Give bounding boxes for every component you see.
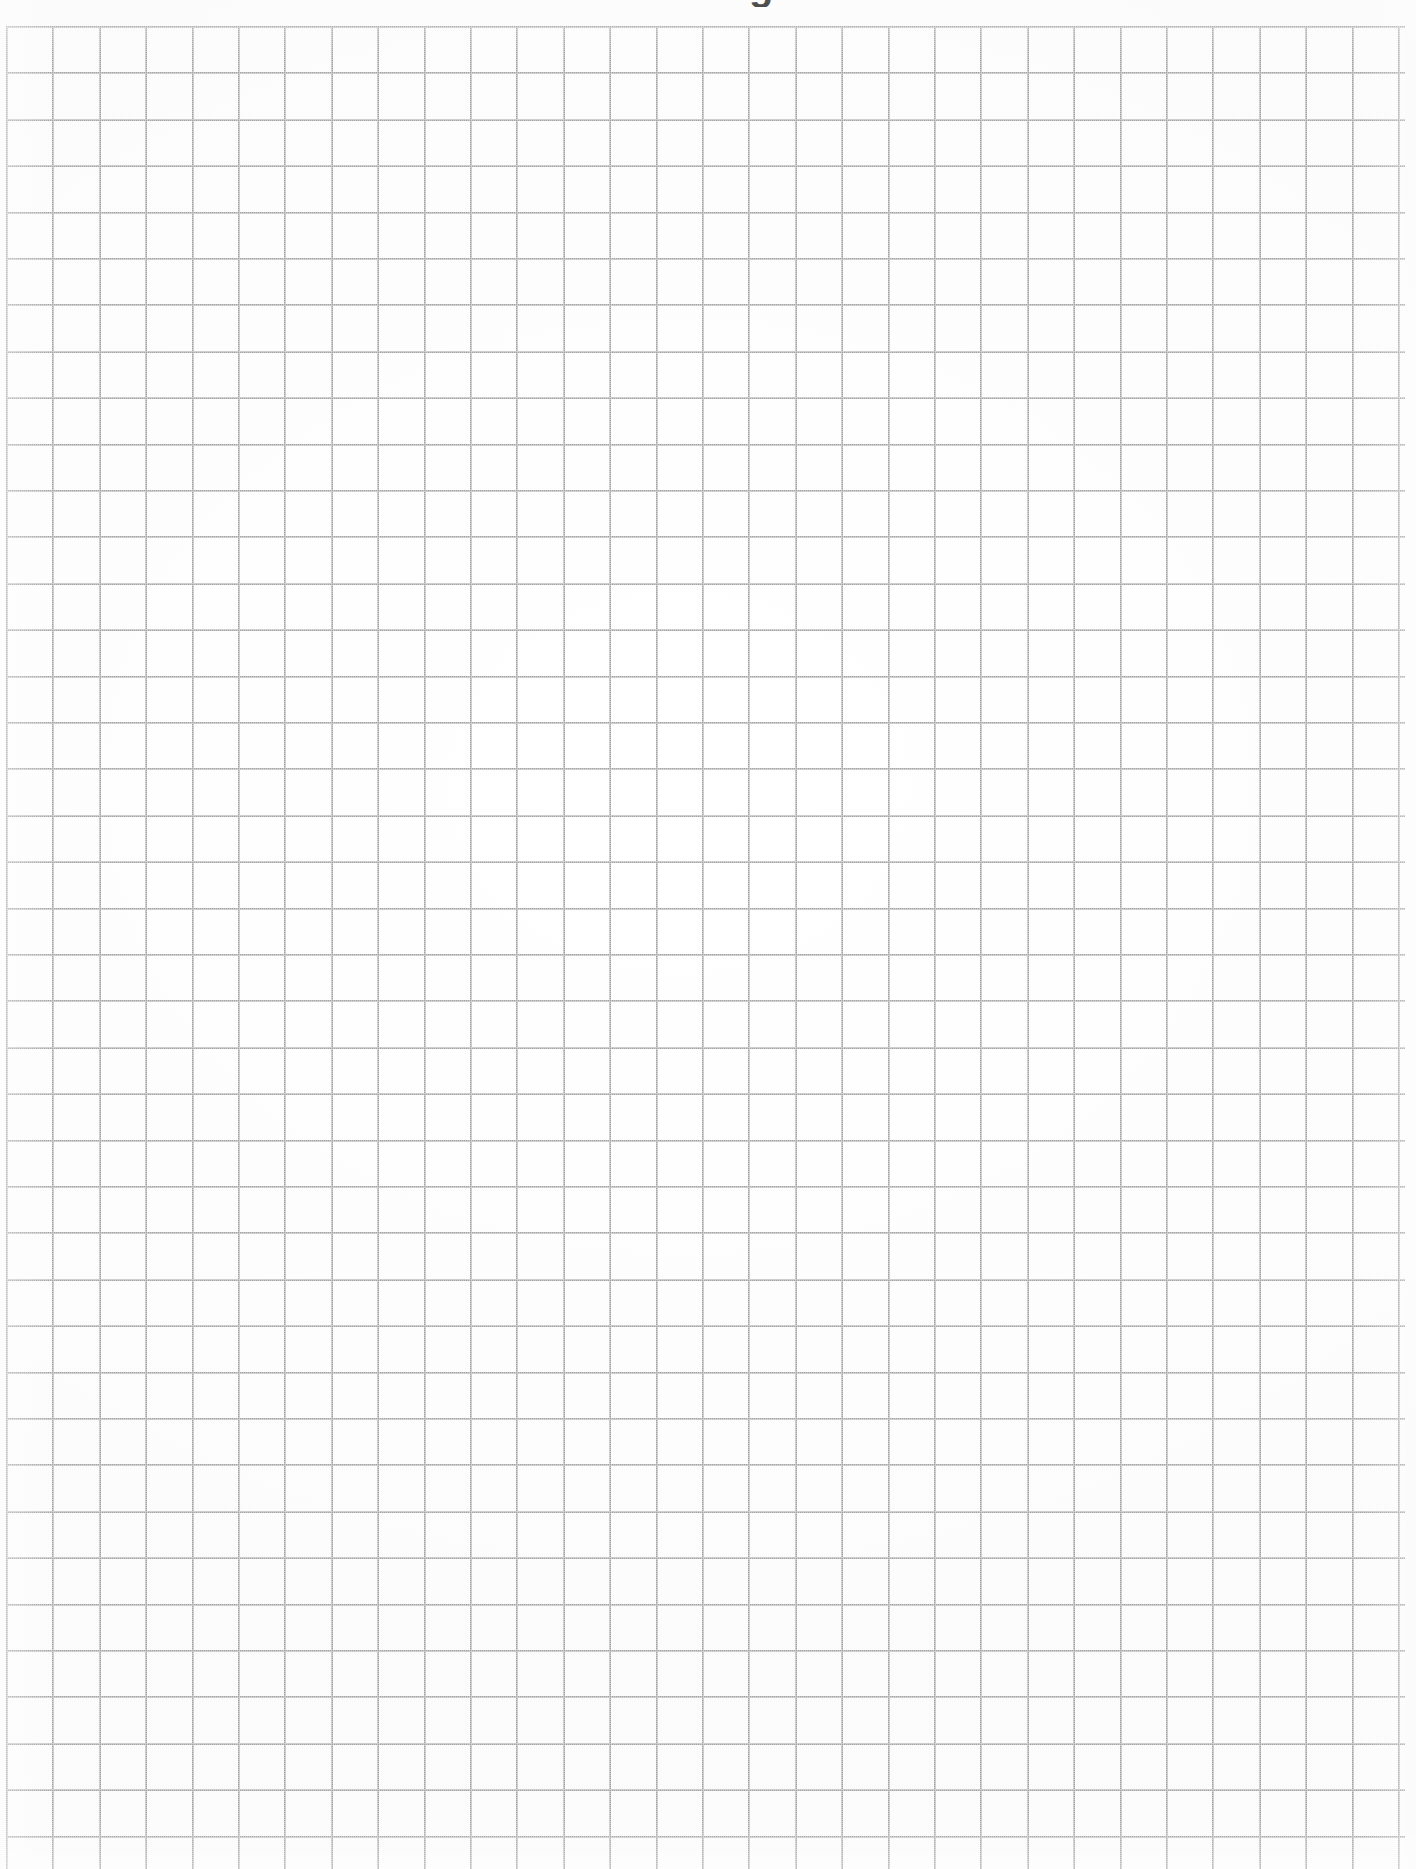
grid-line-vertical: [748, 26, 750, 1869]
grid-line-horizontal: [6, 1372, 1405, 1374]
grid-line-horizontal: [6, 1789, 1405, 1791]
grid-line-vertical: [1212, 26, 1214, 1869]
grid-line-horizontal: [6, 676, 1405, 678]
grid-line-horizontal: [6, 1000, 1405, 1002]
grid-line-horizontal: [6, 1604, 1405, 1606]
grid-line-vertical: [795, 26, 797, 1869]
grid-line-vertical: [238, 26, 240, 1869]
grid-line-vertical: [1166, 26, 1168, 1869]
grid-line-horizontal: [6, 536, 1405, 538]
grid-paper-page: g: [0, 0, 1416, 1869]
grid-line-vertical: [563, 26, 565, 1869]
grid-line-vertical: [1027, 26, 1029, 1869]
grid-line-vertical: [470, 26, 472, 1869]
grid-line-vertical: [1398, 26, 1400, 1869]
grid-line-horizontal: [6, 1047, 1405, 1049]
grid-line-horizontal: [6, 212, 1405, 214]
grid-line-horizontal: [6, 1279, 1405, 1281]
grid-line-vertical: [192, 26, 194, 1869]
grid-line-vertical: [377, 26, 379, 1869]
grid-line-horizontal: [6, 1186, 1405, 1188]
grid-line-horizontal: [6, 397, 1405, 399]
grid-line-horizontal: [6, 722, 1405, 724]
grid-line-vertical: [145, 26, 147, 1869]
grid-line-horizontal: [6, 1696, 1405, 1698]
grid-line-horizontal: [6, 1325, 1405, 1327]
grid-line-horizontal: [6, 768, 1405, 770]
grid-line-horizontal: [6, 1464, 1405, 1466]
grid-line-horizontal: [6, 351, 1405, 353]
grid-line-vertical: [1352, 26, 1354, 1869]
grid-line-horizontal: [6, 954, 1405, 956]
cropped-heading: g: [749, 0, 789, 7]
grid-line-horizontal: [6, 629, 1405, 631]
grid-lines: [6, 26, 1405, 1869]
grid-line-vertical: [980, 26, 982, 1869]
grid-line-vertical: [1259, 26, 1261, 1869]
grid-line-horizontal: [6, 1557, 1405, 1559]
grid-line-horizontal: [6, 490, 1405, 492]
grid-line-horizontal: [6, 1511, 1405, 1513]
grid-line-horizontal: [6, 304, 1405, 306]
grid-area: [6, 26, 1405, 1869]
grid-line-vertical: [516, 26, 518, 1869]
grid-line-horizontal: [6, 444, 1405, 446]
grid-line-horizontal: [6, 815, 1405, 817]
grid-line-horizontal: [6, 908, 1405, 910]
grid-line-vertical: [609, 26, 611, 1869]
grid-line-horizontal: [6, 1836, 1405, 1838]
grid-line-horizontal: [6, 1232, 1405, 1234]
grid-line-vertical: [6, 26, 8, 1869]
grid-line-horizontal: [6, 26, 1405, 28]
grid-line-horizontal: [6, 1743, 1405, 1745]
grid-line-vertical: [331, 26, 333, 1869]
grid-line-vertical: [888, 26, 890, 1869]
grid-line-horizontal: [6, 1093, 1405, 1095]
grid-line-horizontal: [6, 165, 1405, 167]
grid-line-vertical: [1120, 26, 1122, 1869]
grid-line-vertical: [1305, 26, 1307, 1869]
grid-line-horizontal: [6, 1418, 1405, 1420]
grid-line-vertical: [656, 26, 658, 1869]
grid-line-vertical: [284, 26, 286, 1869]
grid-line-horizontal: [6, 72, 1405, 74]
grid-line-horizontal: [6, 861, 1405, 863]
grid-line-horizontal: [6, 1140, 1405, 1142]
grid-line-vertical: [1073, 26, 1075, 1869]
grid-line-vertical: [424, 26, 426, 1869]
grid-line-horizontal: [6, 583, 1405, 585]
grid-line-horizontal: [6, 258, 1405, 260]
grid-line-horizontal: [6, 119, 1405, 121]
grid-line-horizontal: [6, 1650, 1405, 1652]
grid-line-vertical: [702, 26, 704, 1869]
grid-line-vertical: [52, 26, 54, 1869]
grid-line-vertical: [841, 26, 843, 1869]
cropped-heading-glyph: g: [749, 0, 773, 6]
grid-line-vertical: [99, 26, 101, 1869]
grid-line-vertical: [934, 26, 936, 1869]
